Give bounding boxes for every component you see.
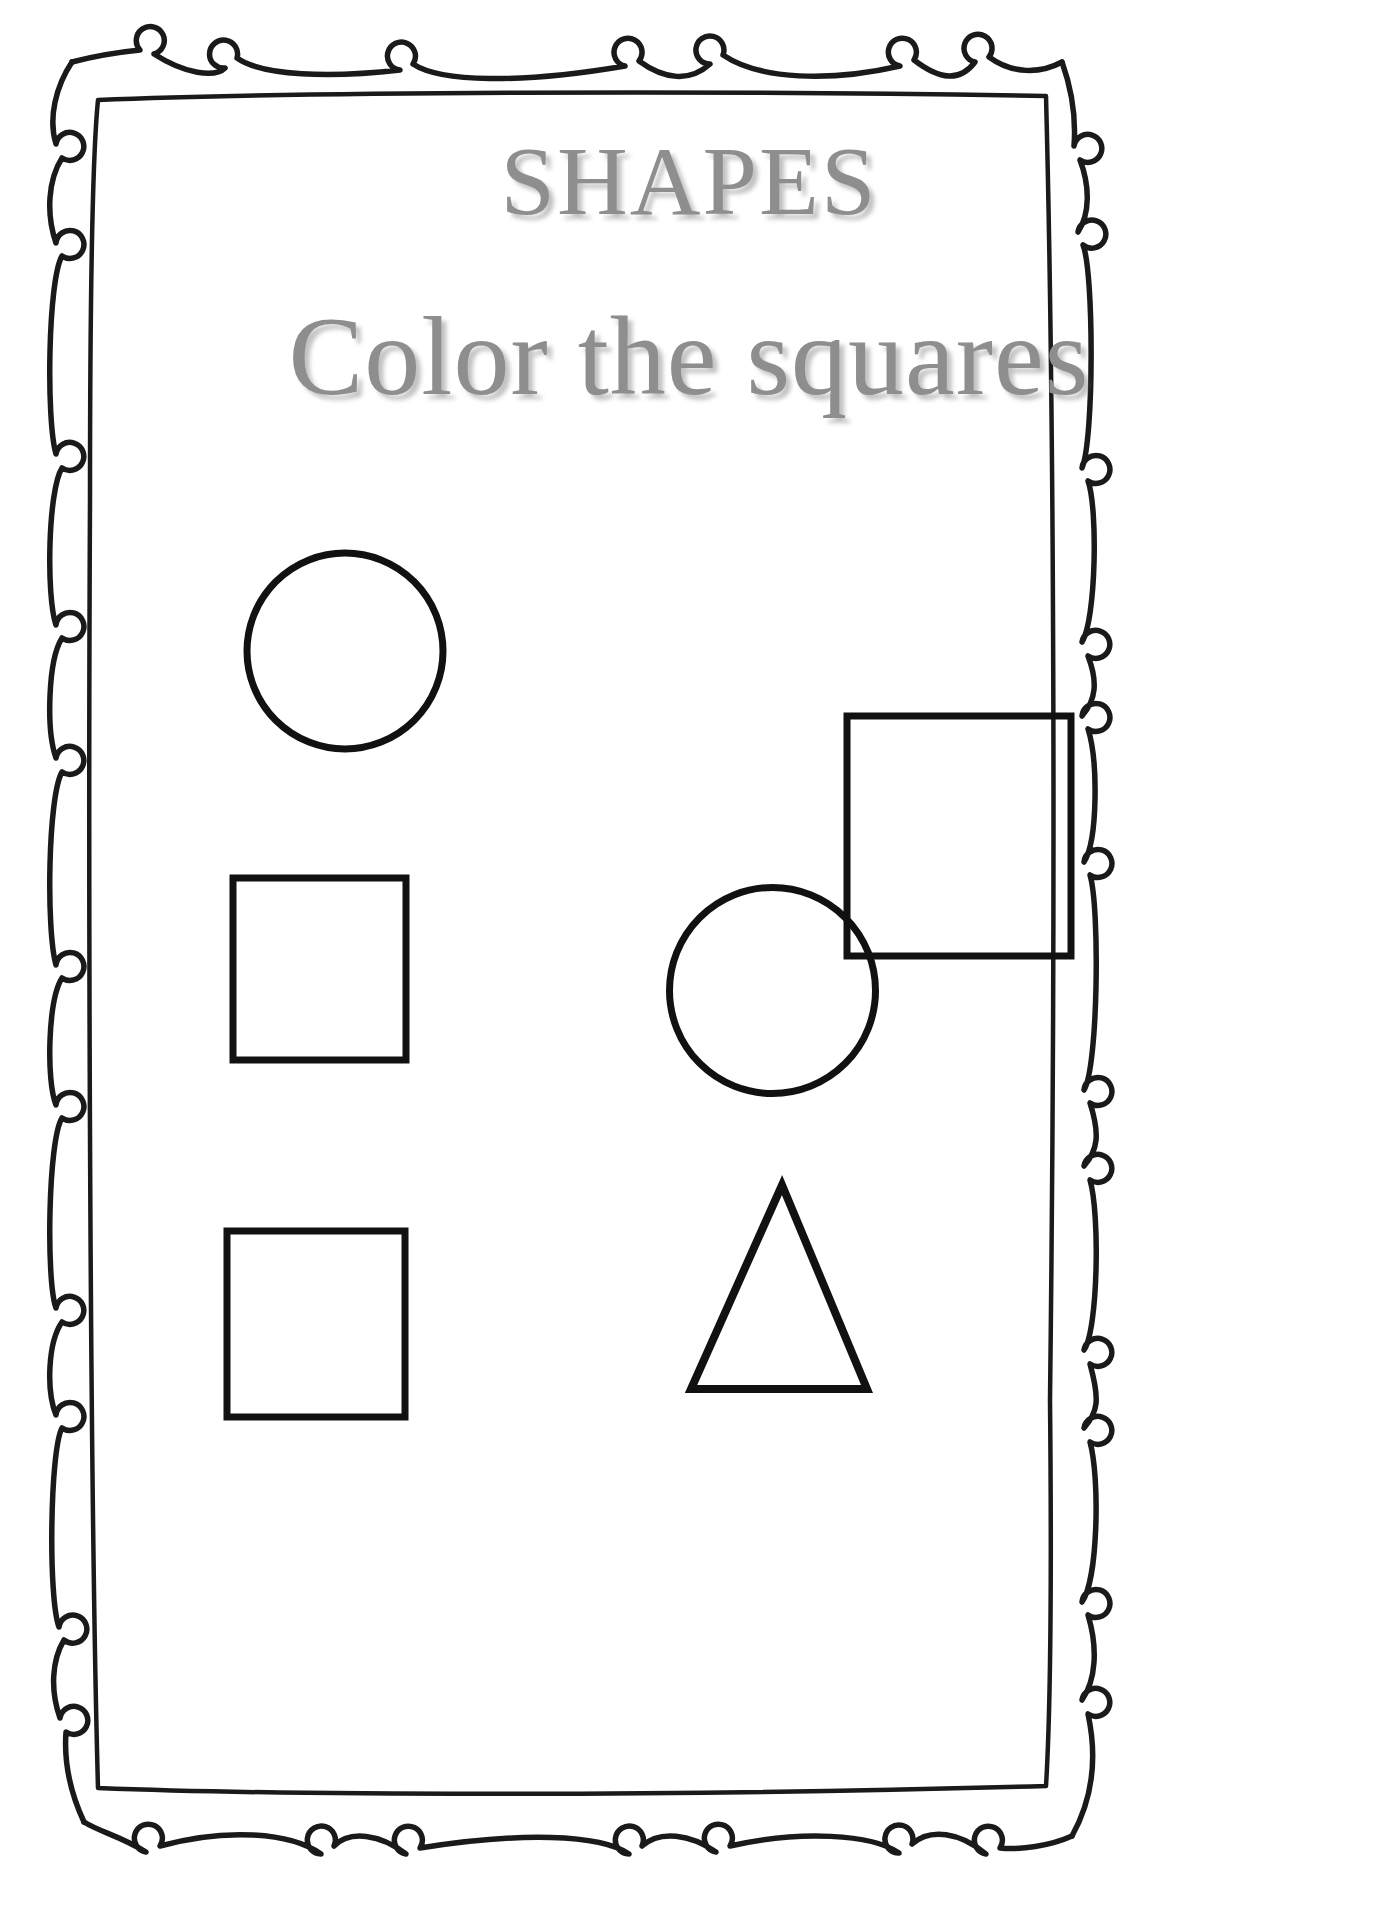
page-subtitle-instruction: Color the squares xyxy=(0,300,1378,412)
shape-circle-1[interactable] xyxy=(232,538,458,764)
shape-square-3[interactable] xyxy=(218,1222,414,1426)
shape-square-2[interactable] xyxy=(224,869,415,1069)
shape-circle-2[interactable] xyxy=(657,875,888,1106)
worksheet-page: SHAPES Color the squares xyxy=(0,0,1378,1920)
worksheet-content: SHAPES Color the squares xyxy=(0,0,1378,1920)
shape-triangle-1[interactable] xyxy=(672,1165,887,1410)
page-title: SHAPES xyxy=(0,132,1378,230)
